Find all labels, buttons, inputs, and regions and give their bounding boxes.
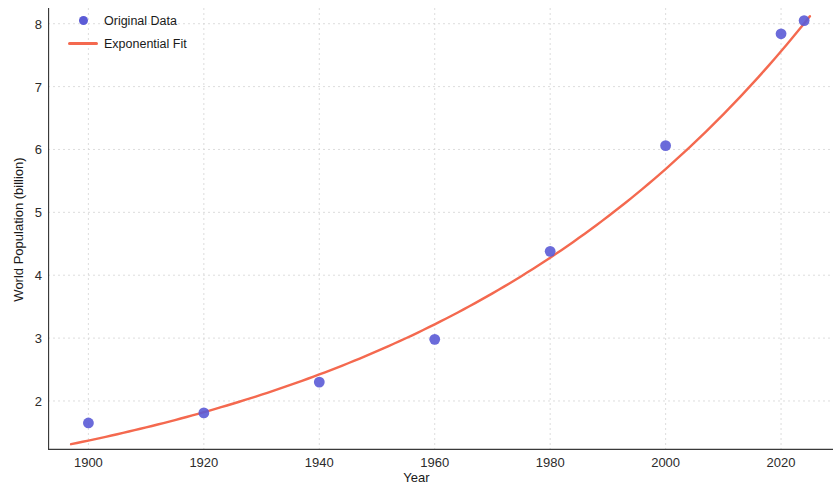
- data-point: [660, 140, 671, 151]
- legend-label-exponential-fit: Exponential Fit: [104, 37, 187, 51]
- y-tick-label: 6: [35, 142, 42, 157]
- y-axis-label: World Population (billion): [11, 90, 26, 370]
- chart-legend: Original Data Exponential Fit: [56, 10, 193, 54]
- x-tick-label: 1940: [305, 455, 334, 470]
- x-tick-label: 2020: [767, 455, 796, 470]
- y-tick-label: 4: [35, 268, 42, 283]
- data-point: [83, 418, 94, 429]
- data-point: [314, 377, 325, 388]
- data-point: [776, 28, 787, 39]
- legend-item-exponential-fit: Exponential Fit: [62, 35, 187, 52]
- y-tick-label: 7: [35, 79, 42, 94]
- x-tick-label: 1920: [189, 455, 218, 470]
- x-axis-label: Year: [0, 470, 833, 485]
- chart-figure: 2345678 1900192019401960198020002020 Wor…: [0, 0, 833, 486]
- legend-marker-dot-icon: [62, 16, 104, 25]
- data-point: [799, 15, 810, 26]
- data-point: [198, 408, 209, 419]
- legend-label-original-data: Original Data: [104, 14, 177, 28]
- data-point: [545, 246, 556, 257]
- x-tick-label: 2000: [651, 455, 680, 470]
- x-tick-label: 1960: [420, 455, 449, 470]
- legend-item-original-data: Original Data: [62, 12, 187, 29]
- y-tick-label: 2: [35, 393, 42, 408]
- y-tick-label: 8: [35, 16, 42, 31]
- y-tick-label: 5: [35, 205, 42, 220]
- x-tick-label: 1900: [74, 455, 103, 470]
- chart-canvas: [48, 8, 833, 450]
- legend-marker-line-icon: [62, 42, 104, 45]
- y-tick-label: 3: [35, 331, 42, 346]
- plot-area: [48, 8, 833, 450]
- x-tick-label: 1980: [536, 455, 565, 470]
- data-point: [429, 334, 440, 345]
